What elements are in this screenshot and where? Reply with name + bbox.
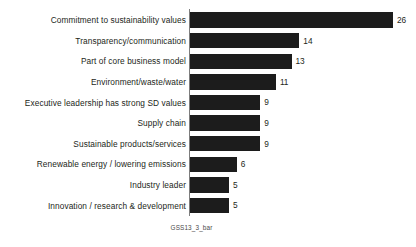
bar-row: Part of core business model13 <box>0 51 416 72</box>
bar-category-label: Commitment to sustainability values <box>0 15 186 25</box>
bar-and-value: 9 <box>190 95 269 110</box>
bar-and-value: 13 <box>190 54 305 69</box>
bar-value-label: 9 <box>264 118 269 128</box>
plot-area: Commitment to sustainability values26Tra… <box>0 0 416 218</box>
bar-value-label: 11 <box>280 77 289 87</box>
bar-category-label: Part of core business model <box>0 56 186 66</box>
bar-and-value: 6 <box>190 157 245 172</box>
bar-row: Innovation / research & development5 <box>0 195 416 216</box>
bar-value-label: 5 <box>233 180 238 190</box>
bar-and-value: 14 <box>190 33 313 48</box>
bar <box>190 177 229 192</box>
bar-row: Industry leader5 <box>0 175 416 196</box>
bar-value-label: 9 <box>264 97 269 107</box>
bar-value-label: 9 <box>264 139 269 149</box>
bar-row: Environment/waste/water11 <box>0 72 416 93</box>
bar-value-label: 6 <box>241 159 246 169</box>
bar-category-label: Transparency/communication <box>0 36 186 46</box>
bar-category-label: Environment/waste/water <box>0 77 186 87</box>
figure-caption: GSS13_3_bar <box>0 224 416 232</box>
bar-value-label: 5 <box>233 200 238 210</box>
bar <box>190 95 260 110</box>
figure-caption-text: GSS13_3_bar <box>171 224 213 232</box>
bar-and-value: 5 <box>190 198 238 213</box>
bar-and-value: 26 <box>190 12 406 27</box>
bar-category-label: Sustainable products/services <box>0 139 186 149</box>
bar-category-label: Innovation / research & development <box>0 201 186 211</box>
bar-category-label: Executive leadership has strong SD value… <box>0 98 186 108</box>
bar-category-label: Supply chain <box>0 118 186 128</box>
bar-and-value: 9 <box>190 115 269 130</box>
bar <box>190 54 292 69</box>
bar <box>190 115 260 130</box>
bar-value-label: 26 <box>397 15 406 25</box>
bar-category-label: Renewable energy / lowering emissions <box>0 159 186 169</box>
bar <box>190 74 276 89</box>
bar <box>190 198 229 213</box>
bar-row: Transparency/communication14 <box>0 31 416 52</box>
bar-and-value: 11 <box>190 74 289 89</box>
bar <box>190 33 299 48</box>
bar-chart-figure: Commitment to sustainability values26Tra… <box>0 0 416 247</box>
bar-row: Commitment to sustainability values26 <box>0 10 416 31</box>
bar <box>190 12 393 27</box>
bar-row: Supply chain9 <box>0 113 416 134</box>
bar-and-value: 5 <box>190 177 238 192</box>
bar-and-value: 9 <box>190 136 269 151</box>
bar-value-label: 13 <box>296 56 305 66</box>
bar-row: Sustainable products/services9 <box>0 134 416 155</box>
bar <box>190 157 237 172</box>
bar <box>190 136 260 151</box>
bar-value-label: 14 <box>303 36 312 46</box>
bar-row: Executive leadership has strong SD value… <box>0 92 416 113</box>
bar-row: Renewable energy / lowering emissions6 <box>0 154 416 175</box>
bar-category-label: Industry leader <box>0 180 186 190</box>
